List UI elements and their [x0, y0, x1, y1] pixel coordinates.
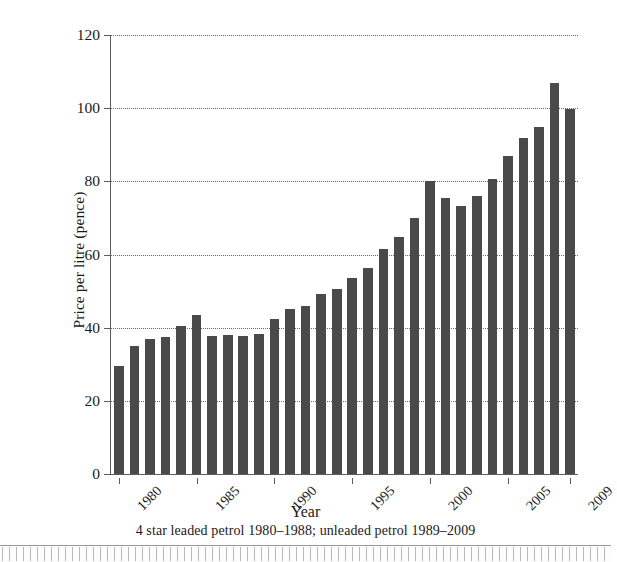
ruler-tick: [541, 547, 542, 561]
x-tick-2005: [508, 478, 509, 484]
bar-1992: [301, 306, 311, 474]
ruler-tick: [198, 547, 199, 561]
y-tick-label-100: 100: [60, 99, 100, 117]
bar-2000: [425, 181, 435, 474]
x-tick-2009: [570, 478, 571, 484]
ruler-tick: [135, 547, 136, 561]
ruler-tick: [233, 547, 234, 561]
ruler-tick: [317, 547, 318, 561]
ruler-tick: [604, 547, 605, 561]
ruler-tick: [338, 547, 339, 561]
ruler-tick: [527, 547, 528, 561]
ruler-tick: [352, 547, 353, 561]
ruler-tick: [177, 547, 178, 561]
ruler-tick: [37, 547, 38, 561]
ruler-tick: [576, 547, 577, 561]
ruler-tick: [583, 547, 584, 561]
ruler-tick: [163, 547, 164, 561]
ruler-tick: [373, 547, 374, 561]
x-tick-1995: [352, 478, 353, 484]
bar-1988: [238, 336, 248, 474]
ruler-tick: [282, 547, 283, 561]
ruler-tick: [387, 547, 388, 561]
ruler-tick: [212, 547, 213, 561]
bar-1989: [254, 334, 264, 474]
ruler-tick: [142, 547, 143, 561]
x-tick-1990: [274, 478, 275, 484]
ruler-tick: [268, 547, 269, 561]
ruler-tick: [555, 547, 556, 561]
y-tick-label-120: 120: [60, 26, 100, 44]
x-tick-1980: [119, 478, 120, 484]
y-tick-label-40: 40: [60, 319, 100, 337]
x-axis-title: Year: [0, 503, 611, 521]
ruler-tick: [429, 547, 430, 561]
ruler-tick: [408, 547, 409, 561]
ruler-tick: [121, 547, 122, 561]
y-tick-0: [104, 474, 111, 475]
ruler-tick: [520, 547, 521, 561]
ruler-tick: [345, 547, 346, 561]
ruler-tick: [86, 547, 87, 561]
ruler-tick: [240, 547, 241, 561]
ruler-tick: [114, 547, 115, 561]
ruler-tick: [590, 547, 591, 561]
ruler-tick: [443, 547, 444, 561]
bar-1995: [347, 278, 357, 474]
bar-2001: [441, 198, 451, 474]
bar-1994: [332, 289, 342, 474]
bar-2004: [488, 179, 498, 474]
ruler-tick: [44, 547, 45, 561]
bar-2009: [565, 109, 575, 474]
bar-2006: [519, 138, 529, 474]
ruler-tick: [506, 547, 507, 561]
ruler-tick: [324, 547, 325, 561]
chart-caption: 4 star leaded petrol 1980–1988; unleaded…: [0, 523, 611, 539]
ruler-tick: [436, 547, 437, 561]
bar-1986: [207, 336, 217, 474]
ruler-tick: [310, 547, 311, 561]
ruler-tick: [471, 547, 472, 561]
ruler-tick: [93, 547, 94, 561]
bar-1996: [363, 268, 373, 474]
ruler-tick: [478, 547, 479, 561]
ruler-tick: [51, 547, 52, 561]
bar-1982: [145, 339, 155, 474]
y-tick-20: [104, 401, 111, 402]
ruler-tick: [205, 547, 206, 561]
ruler-tick: [247, 547, 248, 561]
y-tick-label-0: 0: [60, 465, 100, 483]
y-tick-label-60: 60: [60, 246, 100, 264]
bar-1987: [223, 335, 233, 474]
bar-1998: [394, 237, 404, 474]
bar-2007: [534, 127, 544, 474]
ruler-tick: [499, 547, 500, 561]
bar-1983: [161, 337, 171, 474]
ruler-tick: [72, 547, 73, 561]
ruler-tick: [156, 547, 157, 561]
bar-2005: [503, 156, 513, 474]
bar-1990: [270, 319, 280, 474]
y-tick-label-80: 80: [60, 172, 100, 190]
x-tick-2000: [430, 478, 431, 484]
y-tick-label-20: 20: [60, 392, 100, 410]
ruler-tick: [485, 547, 486, 561]
bar-1984: [176, 326, 186, 474]
ruler-tick: [562, 547, 563, 561]
ruler-tick: [65, 547, 66, 561]
ruler-tick: [597, 547, 598, 561]
ruler-tick: [548, 547, 549, 561]
bar-1991: [285, 309, 295, 474]
bar-1985: [192, 315, 202, 474]
ruler-tick: [30, 547, 31, 561]
ruler-tick: [219, 547, 220, 561]
ruler-tick: [191, 547, 192, 561]
ruler-tick: [534, 547, 535, 561]
x-tick-1985: [197, 478, 198, 484]
bar-1981: [130, 346, 140, 474]
ruler-tick: [464, 547, 465, 561]
bar-2003: [472, 196, 482, 474]
ruler-tick: [2, 547, 3, 561]
ruler-tick: [23, 547, 24, 561]
